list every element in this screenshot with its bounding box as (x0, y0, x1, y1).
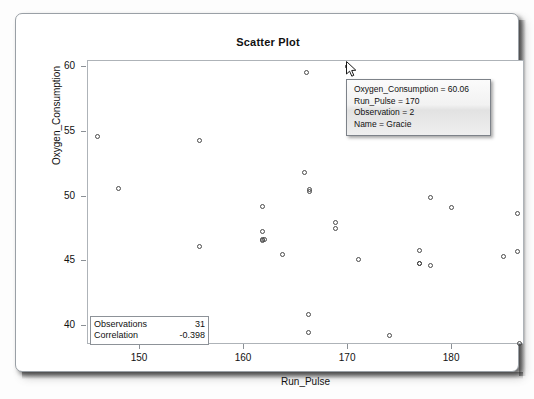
data-point[interactable] (428, 263, 433, 268)
y-tick-label: 60 (49, 60, 75, 71)
data-point[interactable] (356, 257, 361, 262)
stats-value-correlation: -0.398 (179, 330, 205, 341)
data-point[interactable] (197, 244, 202, 249)
data-point[interactable] (417, 248, 422, 253)
y-tick-mark (81, 325, 86, 326)
chart-title: Scatter Plot (16, 36, 520, 48)
tooltip-line-name: Name = Gracie (354, 119, 484, 131)
data-point[interactable] (449, 205, 454, 210)
data-point[interactable] (501, 254, 506, 259)
statistics-inset: Observations 31 Correlation -0.398 (90, 316, 209, 345)
x-axis-title: Run_Pulse (87, 376, 524, 387)
data-point[interactable] (515, 249, 520, 254)
stats-value-observations: 31 (195, 319, 205, 330)
x-tick-mark (243, 344, 244, 349)
data-point[interactable] (387, 333, 392, 338)
data-point[interactable] (197, 138, 202, 143)
y-tick-mark (81, 131, 86, 132)
y-tick-label: 50 (49, 190, 75, 201)
data-point[interactable] (304, 70, 309, 75)
data-point[interactable] (95, 134, 100, 139)
data-point[interactable] (428, 195, 433, 200)
data-point[interactable] (307, 187, 312, 192)
data-point[interactable] (515, 211, 520, 216)
tooltip-line-pulse: Run_Pulse = 170 (354, 96, 484, 108)
data-point-tooltip: Oxygen_Consumption = 60.06 Run_Pulse = 1… (346, 79, 491, 136)
data-point[interactable] (260, 229, 265, 234)
data-point[interactable] (333, 226, 338, 231)
stats-row: Correlation -0.398 (94, 330, 205, 341)
data-point[interactable] (306, 330, 311, 335)
y-tick-label: 55 (49, 125, 75, 136)
tooltip-line-observation: Observation = 2 (354, 107, 484, 119)
data-point[interactable] (116, 186, 121, 191)
data-point[interactable] (302, 170, 307, 175)
screenshot-root: Scatter Plot Oxygen_Consumption Run_Puls… (0, 0, 534, 399)
data-point[interactable] (306, 312, 311, 317)
data-point[interactable] (417, 261, 422, 266)
x-tick-label: 180 (434, 352, 468, 363)
y-tick-label: 45 (49, 254, 75, 265)
data-point[interactable] (260, 204, 265, 209)
x-tick-mark (347, 344, 348, 349)
stats-label-correlation: Correlation (94, 330, 144, 341)
y-tick-label: 40 (49, 319, 75, 330)
x-tick-label: 170 (330, 352, 364, 363)
x-tick-mark (451, 344, 452, 349)
x-tick-label: 150 (122, 352, 156, 363)
y-tick-mark (81, 66, 86, 67)
tooltip-line-oxygen: Oxygen_Consumption = 60.06 (354, 84, 484, 96)
y-tick-mark (81, 196, 86, 197)
data-point[interactable] (333, 220, 338, 225)
data-point[interactable] (517, 341, 522, 346)
data-point[interactable] (262, 237, 267, 242)
y-tick-mark (81, 260, 86, 261)
scatter-plot-window: Scatter Plot Oxygen_Consumption Run_Puls… (15, 13, 519, 372)
stats-row: Observations 31 (94, 319, 205, 330)
x-tick-label: 160 (226, 352, 260, 363)
mouse-cursor-icon (346, 61, 358, 78)
stats-label-observations: Observations (94, 319, 153, 330)
data-point[interactable] (280, 252, 285, 257)
